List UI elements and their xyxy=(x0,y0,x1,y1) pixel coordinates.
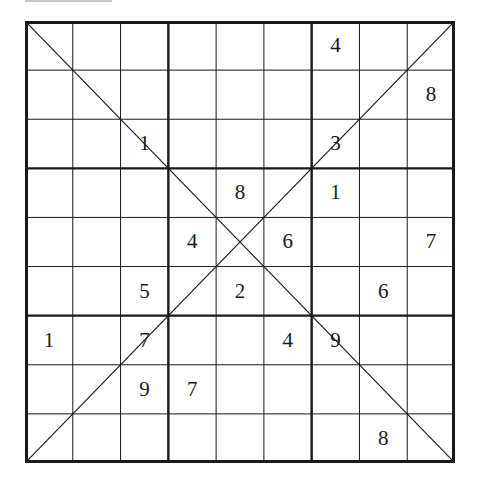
sudoku-cell-r9c9[interactable] xyxy=(407,414,455,463)
sudoku-cell-r5c6[interactable]: 6 xyxy=(264,217,312,266)
sudoku-cell-r1c6[interactable] xyxy=(264,21,312,70)
sudoku-cell-r2c8[interactable] xyxy=(359,70,407,119)
sudoku-cell-r6c2[interactable] xyxy=(73,267,121,316)
sudoku-cell-r9c5[interactable] xyxy=(216,414,264,463)
sudoku-cell-r4c8[interactable] xyxy=(359,168,407,217)
sudoku-cell-r8c5[interactable] xyxy=(216,365,264,414)
sudoku-cell-r7c8[interactable] xyxy=(359,316,407,365)
sudoku-cell-r5c3[interactable] xyxy=(121,217,169,266)
sudoku-cell-r9c8[interactable]: 8 xyxy=(359,414,407,463)
sudoku-grid: 4813814675261749978 xyxy=(25,21,455,463)
sudoku-cell-r7c4[interactable] xyxy=(168,316,216,365)
sudoku-cell-r4c9[interactable] xyxy=(407,168,455,217)
sudoku-cell-r1c4[interactable] xyxy=(168,21,216,70)
sudoku-cell-r5c2[interactable] xyxy=(73,217,121,266)
sudoku-cell-r1c1[interactable] xyxy=(25,21,73,70)
sudoku-cell-r1c3[interactable] xyxy=(121,21,169,70)
sudoku-cell-r4c2[interactable] xyxy=(73,168,121,217)
sudoku-cell-r2c5[interactable] xyxy=(216,70,264,119)
sudoku-cell-r1c8[interactable] xyxy=(359,21,407,70)
sudoku-cell-r5c5[interactable] xyxy=(216,217,264,266)
sudoku-cell-r3c7[interactable]: 3 xyxy=(312,119,360,168)
sudoku-cell-r8c6[interactable] xyxy=(264,365,312,414)
sudoku-cell-r2c3[interactable] xyxy=(121,70,169,119)
sudoku-cell-r6c6[interactable] xyxy=(264,267,312,316)
sudoku-cell-r3c5[interactable] xyxy=(216,119,264,168)
sudoku-cell-r4c4[interactable] xyxy=(168,168,216,217)
sudoku-cell-r2c6[interactable] xyxy=(264,70,312,119)
sudoku-cell-r7c7[interactable]: 9 xyxy=(312,316,360,365)
sudoku-cell-r1c7[interactable]: 4 xyxy=(312,21,360,70)
sudoku-cell-r5c7[interactable] xyxy=(312,217,360,266)
sudoku-cell-r2c9[interactable]: 8 xyxy=(407,70,455,119)
sudoku-cell-r7c5[interactable] xyxy=(216,316,264,365)
sudoku-cell-r7c6[interactable]: 4 xyxy=(264,316,312,365)
sudoku-cell-r9c4[interactable] xyxy=(168,414,216,463)
sudoku-cell-r4c3[interactable] xyxy=(121,168,169,217)
sudoku-cell-r1c2[interactable] xyxy=(73,21,121,70)
sudoku-board: 4813814675261749978 xyxy=(25,21,455,463)
sudoku-cell-r3c1[interactable] xyxy=(25,119,73,168)
sudoku-cell-r9c7[interactable] xyxy=(312,414,360,463)
sudoku-cell-r9c1[interactable] xyxy=(25,414,73,463)
sudoku-cell-r3c4[interactable] xyxy=(168,119,216,168)
sudoku-cell-r1c5[interactable] xyxy=(216,21,264,70)
sudoku-cell-r9c3[interactable] xyxy=(121,414,169,463)
sudoku-cell-r3c9[interactable] xyxy=(407,119,455,168)
sudoku-cell-r4c7[interactable]: 1 xyxy=(312,168,360,217)
sudoku-cell-r8c8[interactable] xyxy=(359,365,407,414)
sudoku-cell-r2c1[interactable] xyxy=(25,70,73,119)
sudoku-cell-r6c9[interactable] xyxy=(407,267,455,316)
sudoku-cell-r5c1[interactable] xyxy=(25,217,73,266)
top-edge-residue xyxy=(25,0,112,2)
sudoku-cell-r4c1[interactable] xyxy=(25,168,73,217)
sudoku-cell-r3c3[interactable]: 1 xyxy=(121,119,169,168)
sudoku-cell-r2c4[interactable] xyxy=(168,70,216,119)
sudoku-cell-r6c8[interactable]: 6 xyxy=(359,267,407,316)
sudoku-cell-r4c5[interactable]: 8 xyxy=(216,168,264,217)
sudoku-cell-r8c7[interactable] xyxy=(312,365,360,414)
sudoku-cell-r8c1[interactable] xyxy=(25,365,73,414)
sudoku-cell-r5c4[interactable]: 4 xyxy=(168,217,216,266)
sudoku-cell-r8c9[interactable] xyxy=(407,365,455,414)
sudoku-cell-r7c3[interactable]: 7 xyxy=(121,316,169,365)
sudoku-cell-r7c1[interactable]: 1 xyxy=(25,316,73,365)
sudoku-cell-r2c7[interactable] xyxy=(312,70,360,119)
sudoku-cell-r8c2[interactable] xyxy=(73,365,121,414)
sudoku-cell-r6c5[interactable]: 2 xyxy=(216,267,264,316)
sudoku-cell-r2c2[interactable] xyxy=(73,70,121,119)
sudoku-cell-r6c1[interactable] xyxy=(25,267,73,316)
sudoku-cell-r6c4[interactable] xyxy=(168,267,216,316)
sudoku-cell-r3c6[interactable] xyxy=(264,119,312,168)
sudoku-cell-r1c9[interactable] xyxy=(407,21,455,70)
sudoku-cell-r7c9[interactable] xyxy=(407,316,455,365)
sudoku-cell-r3c8[interactable] xyxy=(359,119,407,168)
sudoku-cell-r4c6[interactable] xyxy=(264,168,312,217)
sudoku-cell-r8c4[interactable]: 7 xyxy=(168,365,216,414)
sudoku-cell-r9c2[interactable] xyxy=(73,414,121,463)
sudoku-cell-r5c9[interactable]: 7 xyxy=(407,217,455,266)
sudoku-cell-r9c6[interactable] xyxy=(264,414,312,463)
sudoku-cell-r3c2[interactable] xyxy=(73,119,121,168)
sudoku-cell-r6c3[interactable]: 5 xyxy=(121,267,169,316)
sudoku-cell-r7c2[interactable] xyxy=(73,316,121,365)
sudoku-cell-r6c7[interactable] xyxy=(312,267,360,316)
sudoku-cell-r5c8[interactable] xyxy=(359,217,407,266)
sudoku-cell-r8c3[interactable]: 9 xyxy=(121,365,169,414)
